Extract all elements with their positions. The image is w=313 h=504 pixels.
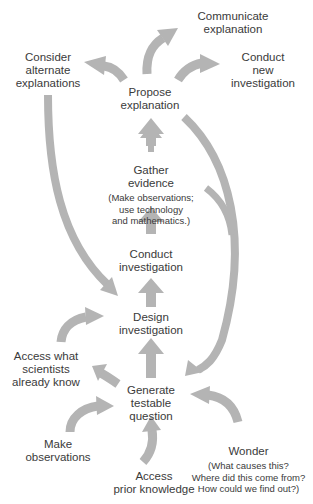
label-conduct-new-investigation: Conduct new investigation [218,51,308,90]
label-access-what-scientists-already-know: Access what scientists already know [6,350,86,389]
gather-evidence-title: Gather evidence [128,164,174,189]
wonder-title: Wonder [228,445,268,457]
label-communicate-explanation: Communicate explanation [188,10,278,36]
label-generate-testable-question: Generate testable question [116,384,186,423]
label-wonder: Wonder (What causes this? Where did this… [186,432,311,504]
arrow-wonder-to-generate [190,386,238,422]
arrow-design-to-conduct [138,278,164,307]
arrow-propose-to-consider [84,56,124,80]
arrow-make-obs-to-generate [70,396,114,432]
label-access-prior-knowledge: Access prior knowledge [104,470,204,496]
arrow-access-scientists-to-design [61,307,104,342]
label-gather-evidence: Gather evidence (Make observations; use … [96,151,206,240]
arrow-generate-to-design [138,338,164,378]
arrow-propose-to-communicate [147,28,178,74]
label-conduct-investigation: Conduct investigation [106,248,196,274]
label-consider-alternate-explanations: Consider alternate explanations [8,51,88,90]
arrow-gather-to-propose-up [138,118,164,146]
label-design-investigation: Design investigation [106,311,196,337]
arrow-generate-to-access-scientists [92,364,118,384]
label-make-observations: Make observations [18,438,98,464]
label-propose-explanation: Propose explanation [110,86,190,112]
wonder-detail: (What causes this? Where did this come f… [186,460,311,495]
gather-evidence-detail: (Make observations; use technology and m… [96,192,206,227]
arrow-propose-to-conduct-new [178,54,220,80]
